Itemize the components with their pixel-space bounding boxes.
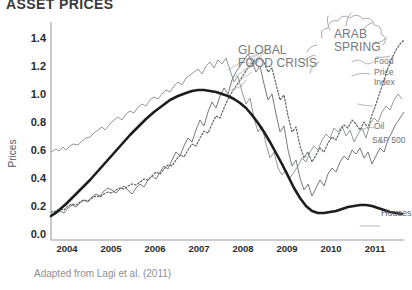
series-label-food-price-index: Food Price Index xyxy=(374,56,395,88)
series-line-oil xyxy=(51,54,404,216)
series-line-houses xyxy=(51,90,402,216)
annotation-arab-spring: ARAB SPRING xyxy=(334,28,381,53)
series-label-oil: Oil xyxy=(374,121,384,132)
annotation-global-food-crisis: GLOBAL FOOD CRISIS xyxy=(238,44,317,69)
series-label-houses: Houses xyxy=(381,208,412,219)
series-label-sp500: S&P 500 xyxy=(372,135,405,146)
source-caption: Adapted from Lagi et al. (2011) xyxy=(34,268,171,279)
series-line-food-price-index xyxy=(51,40,404,212)
series-line-sp500 xyxy=(51,58,402,178)
